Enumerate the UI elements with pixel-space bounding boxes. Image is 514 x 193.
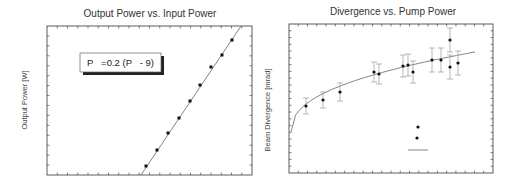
- data-points-with-error-bars: [303, 28, 461, 114]
- data-point: [199, 84, 202, 87]
- plot-frame: [289, 24, 493, 173]
- data-point: [210, 66, 213, 69]
- data-point: [372, 70, 375, 73]
- chart-title-output-power: Output Power vs. Input Power: [84, 8, 218, 19]
- fit-curve: [291, 52, 475, 132]
- divergence-vs-pump-chart: Divergence vs. Pump Power Beam Divergenc…: [263, 6, 493, 173]
- data-point: [406, 63, 409, 66]
- data-point: [167, 132, 170, 135]
- equation-text: P =0.2 (P - 9): [87, 57, 154, 68]
- charts-canvas: Output Power vs. Input Power Output Powe…: [0, 0, 514, 193]
- y-axis-label-divergence: Beam Divergence [mrad]: [263, 69, 272, 152]
- data-point: [321, 98, 324, 101]
- data-point: [411, 70, 414, 73]
- output-vs-input-chart: Output Power vs. Input Power Output Powe…: [20, 8, 252, 175]
- equation-box: P =0.2 (P - 9): [80, 53, 164, 75]
- data-point: [439, 58, 442, 61]
- axis-ticks: [47, 26, 252, 175]
- data-point: [401, 64, 404, 67]
- data-point: [448, 65, 451, 68]
- data-point: [231, 39, 234, 42]
- data-point: [156, 149, 159, 152]
- axis-ticks: [289, 24, 493, 173]
- data-point: [304, 104, 307, 107]
- data-point: [448, 38, 451, 41]
- data-point: [145, 165, 148, 168]
- data-point: [189, 100, 192, 103]
- data-point: [377, 72, 380, 75]
- chart-title-divergence: Divergence vs. Pump Power: [330, 6, 457, 17]
- data-point: [456, 61, 459, 64]
- data-point: [221, 54, 224, 57]
- data-point: [178, 117, 181, 120]
- plot-frame: [47, 26, 252, 175]
- y-axis-label-output-power: Output Power [W]: [20, 70, 29, 129]
- legend-marks: [408, 125, 428, 150]
- data-point: [430, 58, 433, 61]
- data-point: [338, 90, 341, 93]
